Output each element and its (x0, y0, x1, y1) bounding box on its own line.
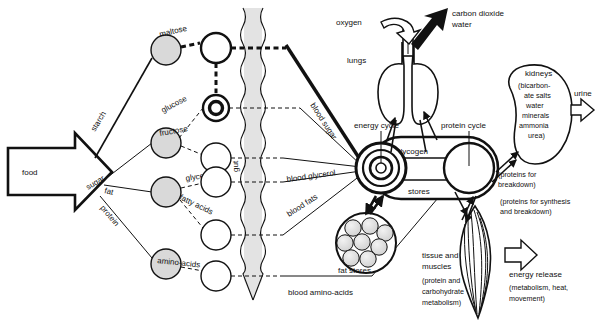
urine-arrow (571, 99, 594, 121)
kidneys-content-2: water (525, 101, 544, 110)
gut-circle-glucose (203, 95, 229, 121)
carbon-dioxide-label: carbon dioxide (452, 9, 505, 18)
blood-label-blood-fats: blood fats (285, 192, 319, 218)
energy-release-arrow (505, 240, 537, 270)
link-glycerol (181, 183, 203, 188)
kidneys-content-1: ate salts (524, 91, 551, 100)
kidneys-content-3: minerals (522, 111, 550, 120)
protein-cycle-label: protein cycle (441, 121, 486, 130)
kidneys-content-0: (bicarbon- (518, 81, 551, 90)
lungs-label: lungs (347, 56, 366, 65)
food-class-label-starch: starch (89, 110, 108, 133)
gut-circle-amino-acids (201, 261, 231, 291)
protein-breakdown-note-0: (proteins for (498, 170, 537, 179)
gut-circle-fatty-acids (201, 220, 231, 250)
urine-label: urine (574, 89, 592, 98)
food-class-links (95, 58, 152, 258)
energy-release-note-0: (metabolism, heat, (509, 283, 568, 292)
carbon-dioxide-arrow (411, 8, 448, 50)
tissue-note-2: metabolism) (422, 298, 461, 307)
energy-release-note-1: movement) (509, 294, 545, 303)
diagram-canvas: food starch sugar fat protein maltose gl… (0, 0, 608, 323)
kidneys-content-5: urea) (528, 131, 545, 140)
metabolism-diagram: food starch sugar fat protein maltose gl… (0, 0, 608, 323)
stores-label: stores (408, 187, 430, 196)
tissue-label-1: muscles (422, 262, 451, 271)
gut-label: gut (231, 160, 240, 172)
gut-tube (241, 8, 266, 300)
blood-label-blood-glycerol: blood glycerol (286, 168, 336, 184)
source-circle-fat (151, 177, 181, 207)
digestion-label-glucose: glucose (160, 94, 189, 115)
fat-store-exchange-arrows (366, 196, 383, 214)
protein-synthesis-note-1: and breakdown) (500, 207, 552, 216)
link-maltose (181, 43, 200, 47)
oxygen-label: oxygen (336, 18, 362, 27)
fat-stores-organ (336, 213, 396, 273)
energy-release-title: energy release (509, 270, 562, 279)
tissue-note-1: carbohydrate (422, 287, 464, 296)
tissue-label-0: tissue and (422, 251, 458, 260)
blood-label-blood-amino-acids: blood amino-acids (288, 288, 353, 297)
protein-breakdown-note-1: breakdown) (498, 180, 536, 189)
kidneys-content-4: ammonia (519, 121, 549, 130)
gut-circle-glycerol (201, 167, 231, 197)
food-label: food (22, 168, 38, 177)
gut-circle-maltose (201, 33, 231, 63)
water-label: water (451, 20, 472, 29)
tissue-note-0: (protein and (422, 276, 460, 285)
protein-synthesis-note-0: (proteins for synthesis (500, 197, 571, 206)
food-class-label-fat: fat (104, 186, 115, 197)
kidneys-title: kidneys (525, 69, 552, 78)
lungs-organ (378, 30, 438, 152)
fat-stores-label: fat stores (338, 266, 371, 275)
muscle-organ (460, 206, 490, 318)
link-fructose (181, 146, 203, 155)
digestion-label-fatty-acids: fatty acids (178, 193, 214, 217)
source-circle-starch (151, 35, 181, 65)
